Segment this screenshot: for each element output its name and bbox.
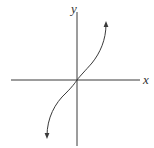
function-graph-figure: y x — [0, 0, 154, 148]
graph-canvas: y x — [0, 0, 154, 148]
x-axis-label: x — [142, 72, 149, 87]
y-axis-label: y — [69, 1, 77, 16]
